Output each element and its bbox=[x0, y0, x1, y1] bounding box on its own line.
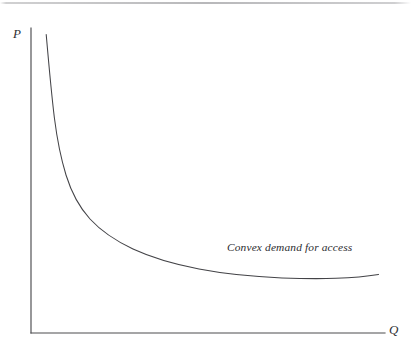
plot-area bbox=[0, 0, 411, 356]
curve-annotation-label: Convex demand for access bbox=[227, 241, 352, 254]
quantity-axis-label: Q bbox=[389, 323, 398, 336]
demand-curve-figure: P Q Convex demand for access bbox=[0, 0, 411, 356]
price-axis-label: P bbox=[13, 27, 21, 40]
